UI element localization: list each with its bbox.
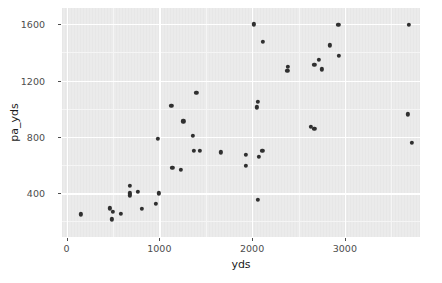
panel-texture-line [149,8,150,237]
panel-texture-line [311,8,312,237]
panel-texture-line [203,8,204,237]
grid-major-vertical [345,8,346,237]
panel-texture-line [176,8,177,237]
grid-major-horizontal [62,81,420,82]
panel-texture-line [83,8,84,237]
x-axis-title: yds [62,258,420,271]
grid-minor-horizontal [62,52,420,53]
panel-texture-line [236,8,237,237]
panel-texture-line [161,8,162,237]
data-point [218,150,222,154]
grid-major-horizontal [62,137,420,138]
panel-texture-line [413,8,414,237]
panel-texture-line [101,8,102,237]
y-axis-title-text: pa_yds [8,103,21,141]
panel-texture-line [116,8,117,237]
data-point [192,149,196,153]
y-axis-tick-label: 800 [27,131,45,142]
grid-major-vertical [67,8,68,237]
data-point [261,40,265,44]
panel-texture-line [377,8,378,237]
grid-minor-horizontal [62,109,420,110]
grid-minor-vertical [391,8,392,237]
panel-texture-line [92,8,93,237]
scatter-plot-figure: 40080012001600 0100020003000 yds pa_yds [0,0,442,283]
data-point [312,63,316,67]
panel-texture-line [341,8,342,237]
panel-texture-line [98,8,99,237]
x-axis-tick-label: 3000 [333,243,357,254]
panel-texture-line [278,8,279,237]
panel-texture-line [380,8,381,237]
x-axis-tick-mark [345,238,346,241]
panel-texture-line [134,8,135,237]
panel-texture-line [143,8,144,237]
panel-texture-line [419,8,420,237]
panel-texture-line [281,8,282,237]
panel-texture-line [362,8,363,237]
x-axis-tick-mark [67,238,68,241]
panel-texture-line [287,8,288,237]
panel-texture-line [194,8,195,237]
panel-texture-line [314,8,315,237]
y-axis-tick-mark [58,137,61,138]
panel-texture-line [272,8,273,237]
panel-texture-line [125,8,126,237]
panel-texture-line [218,8,219,237]
data-point [198,149,202,153]
panel-texture-line [197,8,198,237]
panel-texture-line [170,8,171,237]
panel-texture-line [80,8,81,237]
panel-texture-line [257,8,258,237]
grid-major-vertical [252,8,253,237]
panel-texture-line [353,8,354,237]
grid-major-horizontal [62,24,420,25]
panel-texture-line [266,8,267,237]
panel-texture-line [296,8,297,237]
panel-texture-line [140,8,141,237]
panel-texture-line [305,8,306,237]
panel-texture-line [173,8,174,237]
panel-texture-line [398,8,399,237]
data-point [336,23,340,27]
y-axis-tick-label: 400 [27,188,45,199]
panel-texture-line [107,8,108,237]
y-axis-title: pa_yds [4,0,24,245]
grid-minor-vertical [113,8,114,237]
panel-texture-line [71,8,72,237]
x-axis-tick-mark [159,238,160,241]
panel-texture-line [332,8,333,237]
panel-texture-line [359,8,360,237]
panel-texture-line [179,8,180,237]
x-axis-tick-label: 0 [64,243,70,254]
panel-texture-line [227,8,228,237]
panel-texture-line [254,8,255,237]
panel-texture-line [221,8,222,237]
panel-texture-line [374,8,375,237]
grid-minor-vertical [299,8,300,237]
x-axis-tick-mark [252,238,253,241]
panel-texture-line [110,8,111,237]
grid-minor-horizontal [62,165,420,166]
panel-texture-line [68,8,69,237]
panel-texture-line [191,8,192,237]
panel-texture-line [386,8,387,237]
panel-texture-line [416,8,417,237]
panel-texture-line [395,8,396,237]
panel-texture-line [212,8,213,237]
panel-texture-line [185,8,186,237]
panel-texture-line [350,8,351,237]
y-axis-tick-label: 1200 [21,75,45,86]
x-axis-tick-label: 1000 [147,243,171,254]
panel-texture-line [95,8,96,237]
panel-texture-line [404,8,405,237]
panel-texture-line [230,8,231,237]
panel-texture-line [302,8,303,237]
panel-texture-line [239,8,240,237]
panel-texture-line [323,8,324,237]
y-axis-tick-mark [58,81,61,82]
panel-texture-line [308,8,309,237]
panel-texture-line [410,8,411,237]
panel-texture-line [269,8,270,237]
panel-texture-line [164,8,165,237]
